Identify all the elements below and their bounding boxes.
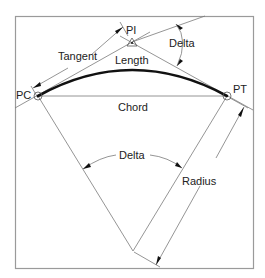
radius-ext-line-pt	[230, 98, 248, 108]
arrow-icon	[238, 107, 244, 117]
label-pc: PC	[16, 89, 31, 101]
radius-dim-line-b	[156, 186, 200, 265]
arrow-icon	[177, 59, 183, 66]
radius-line-pc	[38, 96, 133, 251]
circular-curve	[38, 70, 227, 96]
label-radius: Radius	[182, 175, 217, 187]
label-delta-top: Delta	[169, 37, 196, 49]
label-pt: PT	[233, 83, 247, 95]
label-length: Length	[115, 54, 149, 66]
label-delta-center: Delta	[119, 149, 146, 161]
label-tangent: Tangent	[58, 50, 97, 62]
arrow-icon	[33, 82, 41, 88]
arrow-icon	[83, 163, 91, 169]
radius-line-pt	[133, 96, 227, 251]
arrow-icon	[175, 162, 182, 168]
label-chord: Chord	[118, 101, 148, 113]
pi-dot-icon	[131, 42, 133, 44]
curve-diagram: PI PC PT Tangent Length Chord Delta Delt…	[0, 0, 265, 278]
label-pi: PI	[126, 24, 136, 36]
